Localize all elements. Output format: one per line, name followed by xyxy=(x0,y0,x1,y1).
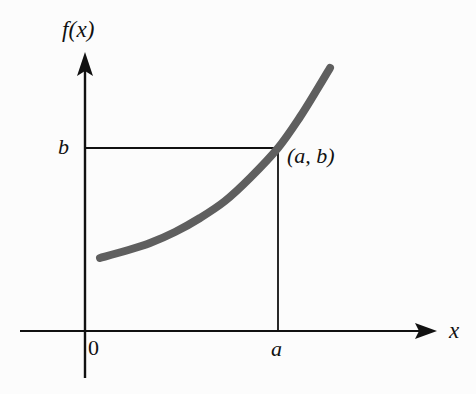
figure-canvas: f(x) b 0 a x (a, b) xyxy=(0,0,476,394)
y-tick-label-b: b xyxy=(58,136,69,158)
x-axis-label: x xyxy=(449,319,459,342)
point-annotation-ab: (a, b) xyxy=(287,145,335,167)
x-tick-label-a: a xyxy=(271,338,282,360)
graph-svg xyxy=(0,0,476,394)
origin-label: 0 xyxy=(88,337,99,359)
y-axis-label: f(x) xyxy=(62,18,95,41)
